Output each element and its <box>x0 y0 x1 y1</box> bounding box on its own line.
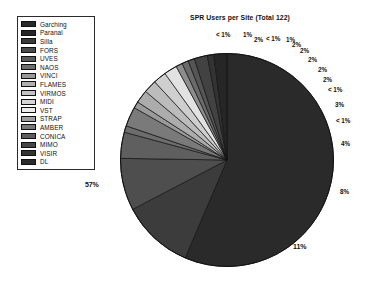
legend-item-label: Paranal <box>40 29 63 36</box>
pie-percent-label: 2% <box>308 56 317 63</box>
legend-swatch-icon <box>21 124 36 130</box>
legend-swatch-icon <box>21 56 36 62</box>
legend-item: Silla <box>21 37 91 46</box>
legend-item: FLAMES <box>21 80 91 89</box>
pie-percent-label: < 1% <box>216 31 230 38</box>
legend-item-label: VST <box>40 107 53 114</box>
legend-swatch-icon <box>21 21 36 27</box>
pie-chart <box>119 52 335 268</box>
pie-percent-label: 57% <box>85 181 99 188</box>
pie-percent-label: < 1% <box>336 117 350 124</box>
legend-item: Garching <box>21 20 91 29</box>
legend-item: UVES <box>21 54 91 63</box>
legend-item: VISIR <box>21 149 91 158</box>
legend-item: VINCI <box>21 72 91 81</box>
pie-percent-label: 2% <box>323 76 332 83</box>
legend-item-label: DL <box>40 158 48 165</box>
pie-percent-label: < 1% <box>266 35 280 42</box>
legend-swatch-icon <box>21 99 36 105</box>
legend-item: AMBER <box>21 123 91 132</box>
legend-item: FORS <box>21 46 91 55</box>
legend-item: CONICA <box>21 132 91 141</box>
legend-item: Paranal <box>21 29 91 38</box>
legend-item-label: STRAP <box>40 115 62 122</box>
pie-percent-label: 3% <box>335 101 344 108</box>
legend-swatch-icon <box>21 159 36 165</box>
legend-item: NAOS <box>21 63 91 72</box>
legend-item-label: NAOS <box>40 64 59 71</box>
legend-swatch-icon <box>21 47 36 53</box>
legend-item-label: AMBER <box>40 124 63 131</box>
chart-canvas: GarchingParanalSillaFORSUVESNAOSVINCIFLA… <box>0 0 383 283</box>
chart-title: SPR Users per Site (Total 122) <box>140 14 340 21</box>
legend-swatch-icon <box>21 107 36 113</box>
legend-item-label: CONICA <box>40 133 65 140</box>
legend-swatch-icon <box>21 64 36 70</box>
legend-item-label: VIRMOS <box>40 90 66 97</box>
legend-item-label: FORS <box>40 47 58 54</box>
legend-swatch-icon <box>21 30 36 36</box>
legend-swatch-icon <box>21 116 36 122</box>
pie-percent-label: 2% <box>300 47 309 54</box>
legend-item: VIRMOS <box>21 89 91 98</box>
legend-item: MIDI <box>21 97 91 106</box>
pie-percent-label: 11% <box>293 243 306 250</box>
pie-slices <box>120 53 333 266</box>
legend-swatch-icon <box>21 90 36 96</box>
legend-items: GarchingParanalSillaFORSUVESNAOSVINCIFLA… <box>21 20 91 166</box>
pie-percent-label: < 1% <box>328 86 342 93</box>
legend-item-label: VISIR <box>40 150 57 157</box>
pie-percent-label: 2% <box>318 66 327 73</box>
pie-percent-label: 8% <box>340 188 349 195</box>
legend-swatch-icon <box>21 81 36 87</box>
legend-item-label: MIMO <box>40 141 58 148</box>
legend-swatch-icon <box>21 142 36 148</box>
pie-svg <box>119 52 335 268</box>
legend-item: MIMO <box>21 140 91 149</box>
pie-percent-label: 4% <box>341 140 350 147</box>
legend-item: STRAP <box>21 115 91 124</box>
legend-item-label: UVES <box>40 55 58 62</box>
legend: GarchingParanalSillaFORSUVESNAOSVINCIFLA… <box>17 16 95 170</box>
legend-item: DL <box>21 158 91 167</box>
legend-swatch-icon <box>21 38 36 44</box>
legend-item-label: VINCI <box>40 72 58 79</box>
legend-swatch-icon <box>21 150 36 156</box>
legend-item-label: Garching <box>40 21 67 28</box>
pie-percent-label: 1% <box>243 31 252 38</box>
legend-item-label: Silla <box>40 38 53 45</box>
legend-item-label: FLAMES <box>40 81 66 88</box>
legend-item-label: MIDI <box>40 98 54 105</box>
legend-item: VST <box>21 106 91 115</box>
legend-swatch-icon <box>21 73 36 79</box>
pie-percent-label: 2% <box>254 36 263 43</box>
legend-swatch-icon <box>21 133 36 139</box>
